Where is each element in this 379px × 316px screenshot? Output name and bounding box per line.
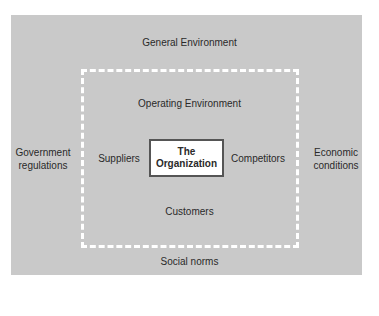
- organization-line: The: [178, 146, 196, 158]
- general-environment-label: General Environment: [0, 36, 379, 49]
- suppliers-label: Suppliers: [92, 152, 146, 165]
- label-line: Government: [8, 146, 78, 159]
- label-line: regulations: [8, 159, 78, 172]
- competitors-label: Competitors: [227, 152, 289, 165]
- label-line: Economic: [300, 146, 372, 159]
- economic-conditions-label: Economic conditions: [300, 146, 372, 172]
- government-regulations-label: Government regulations: [8, 146, 78, 172]
- operating-environment-label: Operating Environment: [0, 97, 379, 110]
- organization-box: The Organization: [149, 139, 224, 177]
- label-line: conditions: [300, 159, 372, 172]
- social-norms-label: Social norms: [0, 255, 379, 268]
- customers-label: Customers: [0, 205, 379, 218]
- organization-line: Organization: [156, 158, 217, 170]
